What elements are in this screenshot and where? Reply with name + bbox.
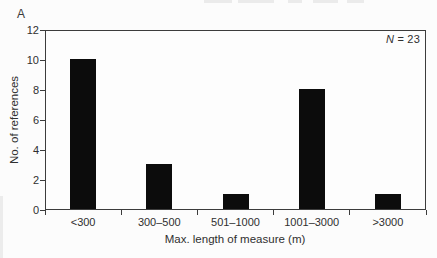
y-axis-tick — [40, 120, 45, 121]
y-axis-tick-label: 2 — [11, 174, 39, 187]
x-axis-tick — [45, 210, 46, 215]
sample-size-symbol: N — [386, 33, 394, 45]
y-axis-tick-label: 6 — [11, 114, 39, 127]
scan-artifact — [347, 0, 364, 3]
bar-1 — [70, 59, 96, 209]
plot-area — [45, 30, 426, 210]
y-axis-tick — [40, 60, 45, 61]
y-axis-tick-label: 8 — [11, 84, 39, 97]
x-axis-tick — [121, 210, 122, 215]
x-axis-category-label: >3000 — [350, 216, 426, 228]
x-axis-tick — [273, 210, 274, 215]
x-axis-tick — [349, 210, 350, 215]
y-axis-tick — [40, 150, 45, 151]
y-axis-tick — [40, 90, 45, 91]
panel-label: A — [17, 7, 25, 21]
bar-5 — [375, 194, 401, 209]
figure-bar-chart: A N = 23 No. of references Max. length o… — [0, 0, 437, 258]
x-axis-category-label: 1001–3000 — [274, 216, 350, 228]
bar-2 — [146, 164, 172, 209]
scan-artifact — [313, 0, 338, 3]
x-axis-tick — [426, 210, 427, 215]
y-axis-tick-label: 0 — [11, 204, 39, 217]
scan-artifact — [0, 196, 3, 258]
x-axis-category-label: 300–500 — [121, 216, 197, 228]
sample-size-value: = 23 — [394, 33, 420, 45]
y-axis-tick — [40, 180, 45, 181]
x-axis-category-label: <300 — [45, 216, 121, 228]
y-axis-tick-label: 4 — [11, 144, 39, 157]
x-axis-category-label: 501–1000 — [198, 216, 274, 228]
sample-size-annotation: N = 23 — [320, 33, 420, 45]
scan-artifact — [204, 0, 232, 3]
bar-4 — [299, 89, 325, 209]
y-axis-tick-label: 10 — [11, 54, 39, 67]
x-axis-tick — [197, 210, 198, 215]
y-axis-tick — [40, 30, 45, 31]
y-axis-tick-label: 12 — [11, 24, 39, 37]
x-axis-title: Max. length of measure (m) — [125, 233, 345, 245]
scan-artifact — [238, 0, 274, 3]
bar-3 — [223, 194, 249, 209]
scan-artifact — [288, 0, 302, 3]
